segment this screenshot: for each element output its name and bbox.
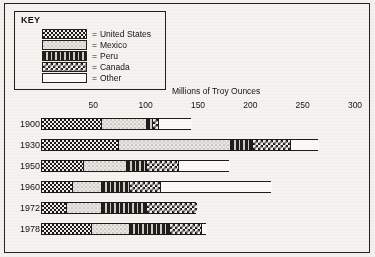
bar-1960 — [41, 181, 271, 193]
legend-label-united-states: United States — [100, 29, 151, 39]
y-axis-label-1950: 1950 — [20, 161, 40, 171]
bar-1972 — [41, 202, 196, 214]
bar-segment-1972-united-states — [42, 203, 67, 213]
legend-label-canada: Canada — [100, 62, 130, 72]
y-axis-label-1978: 1978 — [20, 224, 40, 234]
y-axis-label-1930: 1930 — [20, 140, 40, 150]
legend-label-other: Other — [100, 73, 121, 83]
legend-swatch-canada-icon — [42, 62, 87, 72]
bar-segment-1930-other — [291, 140, 319, 150]
y-axis-label-1972: 1972 — [20, 203, 40, 213]
legend-swatch-mexico-icon — [42, 40, 87, 50]
legend-item-canada: = Canada — [42, 61, 162, 72]
bar-segment-1950-canada — [147, 161, 179, 171]
bar-segment-1900-other — [159, 119, 191, 129]
legend-label-mexico: Mexico — [100, 40, 127, 50]
legend-box: KEY = United States = Mexico = Peru = Ca… — [14, 11, 166, 90]
y-axis-label-1960: 1960 — [20, 182, 40, 192]
legend-equals-sign: = — [92, 73, 97, 83]
bar-segment-1978-united-states — [42, 224, 92, 234]
bar-1930 — [41, 139, 318, 151]
plot-area — [41, 112, 355, 240]
y-axis-category-labels: 190019301950196019721978 — [8, 112, 40, 240]
x-tick-label: 200 — [243, 100, 257, 110]
bar-segment-1930-peru — [231, 140, 253, 150]
bar-segment-1972-canada — [147, 203, 197, 213]
bar-segment-1978-other — [202, 224, 207, 234]
legend-item-united-states: = United States — [42, 28, 162, 39]
bar-segment-1972-peru — [102, 203, 147, 213]
bar-segment-1960-united-states — [42, 182, 73, 192]
x-tick-label: 300 — [348, 100, 362, 110]
x-tick-label: 150 — [191, 100, 205, 110]
legend-equals-sign: = — [92, 40, 97, 50]
bar-segment-1960-mexico — [73, 182, 101, 192]
legend-label-peru: Peru — [100, 51, 118, 61]
bar-segment-1950-united-states — [42, 161, 84, 171]
bar-segment-1930-mexico — [119, 140, 231, 150]
legend-swatch-peru-icon — [42, 51, 87, 61]
bar-segment-1978-peru — [130, 224, 170, 234]
legend-swatch-other-icon — [42, 73, 87, 83]
x-axis-title: Millions of Troy Ounces — [172, 86, 260, 96]
bar-segment-1960-other — [161, 182, 272, 192]
bar-1950 — [41, 160, 229, 172]
bar-segment-1972-mexico — [67, 203, 102, 213]
legend-title: KEY — [21, 15, 40, 25]
x-tick-label: 100 — [139, 100, 153, 110]
legend-equals-sign: = — [92, 51, 97, 61]
legend-item-other: = Other — [42, 72, 162, 83]
legend-equals-sign: = — [92, 62, 97, 72]
x-tick-label: 50 — [89, 100, 98, 110]
legend-item-peru: = Peru — [42, 50, 162, 61]
bar-1978 — [41, 223, 206, 235]
bar-segment-1950-peru — [127, 161, 147, 171]
chart-page: KEY = United States = Mexico = Peru = Ca… — [0, 0, 375, 257]
x-tick-label: 250 — [296, 100, 310, 110]
legend-items: = United States = Mexico = Peru = Canada — [42, 28, 162, 83]
legend-equals-sign: = — [92, 29, 97, 39]
bar-segment-1900-united-states — [42, 119, 102, 129]
bar-segment-1978-canada — [170, 224, 202, 234]
y-axis-label-1900: 1900 — [20, 119, 40, 129]
x-axis-tick-labels: 50100150200250300 — [41, 100, 371, 111]
bar-segment-1900-mexico — [102, 119, 147, 129]
bar-segment-1960-canada — [130, 182, 161, 192]
bar-1900 — [41, 118, 191, 130]
legend-item-mexico: = Mexico — [42, 39, 162, 50]
bar-segment-1930-canada — [253, 140, 291, 150]
legend-swatch-united-states-icon — [42, 29, 87, 39]
bar-segment-1960-peru — [102, 182, 130, 192]
bar-segment-1930-united-states — [42, 140, 119, 150]
bar-segment-1950-other — [179, 161, 230, 171]
bar-segment-1978-mexico — [92, 224, 130, 234]
bar-segment-1950-mexico — [84, 161, 127, 171]
